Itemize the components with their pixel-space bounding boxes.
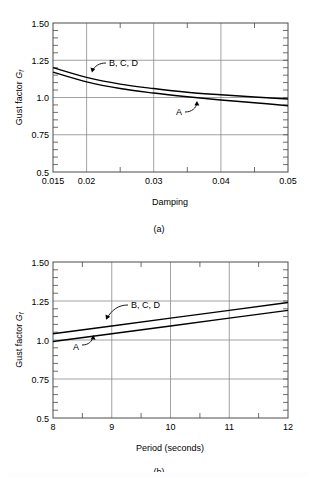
- y-tick-label-a-0: 1.50: [31, 19, 49, 29]
- y-tick-label-b-4: 0.5: [36, 414, 49, 424]
- x-tick-label-a-3: 0.04: [212, 176, 230, 186]
- y-axis-title-b-symbol: G: [14, 314, 24, 321]
- caption-a: (a): [154, 224, 165, 234]
- y-axis-title-a-symbol: G: [14, 72, 24, 79]
- y-tick-label-b-0: 1.50: [31, 258, 49, 268]
- y-axis-title-b-subscript: f: [18, 311, 25, 314]
- x-tick-label-b-4: 12: [283, 422, 293, 432]
- y-axis-title-a-text: Gust factor: [14, 79, 24, 126]
- y-tick-label-a-3: 0.75: [31, 130, 49, 140]
- y-tick-label-b-3: 0.75: [31, 375, 49, 385]
- figure-panel-b: 1.50 1.25 1.0 0.75 0.5 8 9 10 11 12 B, C…: [0, 240, 319, 483]
- y-tick-label-b-1: 1.25: [31, 297, 49, 307]
- x-axis-title-a: Damping: [152, 197, 188, 207]
- y-tick-label-a-1: 1.25: [31, 56, 49, 66]
- x-tick-label-b-3: 11: [225, 422, 234, 432]
- y-axis-title-b: Gust factor Gf: [14, 311, 25, 368]
- x-tick-label-a-0: 0.015: [42, 176, 65, 186]
- curve-label-b-bcd: B, C, D: [131, 300, 161, 310]
- y-tick-label-b-2: 1.0: [36, 336, 49, 346]
- figure-panel-a: 1.50 1.25 1.0 0.75 0.5 0.015 0.02 0.03 0…: [0, 0, 319, 240]
- y-tick-label-a-2: 1.0: [36, 93, 49, 103]
- chart-b-svg: 1.50 1.25 1.0 0.75 0.5 8 9 10 11 12 B, C…: [0, 240, 319, 483]
- curve-label-a-a: A: [176, 107, 182, 117]
- x-tick-label-a-4: 0.05: [279, 176, 297, 186]
- x-tick-label-b-2: 10: [165, 422, 175, 432]
- chart-a-svg: 1.50 1.25 1.0 0.75 0.5 0.015 0.02 0.03 0…: [0, 0, 319, 240]
- y-axis-title-a: Gust factor Gf: [14, 69, 25, 126]
- page-bottom-artifact: [8, 472, 308, 478]
- x-tick-label-a-2: 0.03: [145, 176, 163, 186]
- curve-label-b-a: A: [73, 342, 79, 352]
- curve-label-a-bcd: B, C, D: [109, 58, 139, 68]
- y-axis-title-a-subscript: f: [18, 69, 25, 72]
- x-tick-label-b-0: 8: [50, 422, 55, 432]
- x-tick-label-a-1: 0.02: [78, 176, 96, 186]
- x-axis-title-b: Period (seconds): [136, 443, 204, 453]
- y-axis-title-b-text: Gust factor: [14, 321, 24, 368]
- x-tick-label-b-1: 9: [109, 422, 114, 432]
